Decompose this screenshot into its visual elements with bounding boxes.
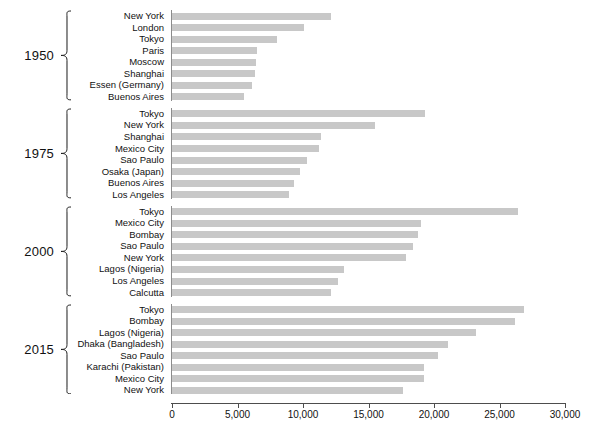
category-label: Los Angeles [112, 276, 168, 286]
category-label: Mexico City [115, 218, 168, 228]
category-label: New York [124, 120, 168, 130]
category-label: Dhaka (Bangladesh) [77, 339, 168, 349]
x-axis-tick-label: 30,000 [550, 409, 581, 420]
bar [172, 278, 338, 285]
bar [172, 364, 424, 371]
x-axis-tick [172, 404, 173, 408]
category-label: Sao Paulo [120, 155, 168, 165]
bar [172, 191, 289, 198]
x-axis-tick-label: 20,000 [419, 409, 450, 420]
category-labels-column: New YorkLondonTokyoParisMoscowShanghaiEs… [0, 0, 168, 429]
bar [172, 82, 252, 89]
bar [172, 375, 424, 382]
group-brace-icon [58, 108, 72, 199]
category-label: Mexico City [115, 144, 168, 154]
bar [172, 243, 413, 250]
group-year-label: 2015 [8, 342, 54, 357]
bar [172, 180, 294, 187]
category-label: Karachi (Pakistan) [86, 362, 168, 372]
group-year-label: 2000 [8, 244, 54, 259]
category-label: London [132, 23, 168, 33]
group-baseline [171, 304, 172, 395]
bar [172, 47, 257, 54]
bar [172, 145, 319, 152]
bar [172, 36, 277, 43]
plot-area: 05,00010,00015,00020,00025,00030,000 [168, 0, 597, 429]
category-label: Osaka (Japan) [102, 167, 168, 177]
bar [172, 387, 403, 394]
bar [172, 70, 255, 77]
bar [172, 231, 418, 238]
category-label: Bombay [129, 230, 168, 240]
group-brace-icon [58, 10, 72, 101]
x-axis-tick-label: 15,000 [353, 409, 384, 420]
bar [172, 254, 406, 261]
x-axis-tick-label: 0 [169, 409, 175, 420]
category-label: Bombay [129, 316, 168, 326]
bar [172, 208, 518, 215]
x-axis-tick [565, 404, 566, 408]
category-label: Los Angeles [112, 190, 168, 200]
category-label: Lagos (Nigeria) [99, 264, 168, 274]
group-baseline [171, 206, 172, 297]
category-label: Tokyo [139, 207, 168, 217]
x-axis-tick [303, 404, 304, 408]
category-label: Tokyo [139, 109, 168, 119]
category-label: Paris [142, 46, 168, 56]
bar [172, 220, 421, 227]
category-label: New York [124, 253, 168, 263]
category-label: Buenos Aires [108, 92, 168, 102]
x-axis-tick [369, 404, 370, 408]
category-label: Shanghai [124, 132, 168, 142]
bar [172, 306, 524, 313]
group-brace-icon [58, 304, 72, 395]
category-label: Sao Paulo [120, 351, 168, 361]
bar [172, 110, 425, 117]
group-baseline [171, 108, 172, 199]
bar [172, 329, 476, 336]
bar [172, 13, 331, 20]
category-label: Tokyo [139, 305, 168, 315]
bar [172, 59, 256, 66]
bar [172, 266, 344, 273]
bar [172, 133, 321, 140]
category-label: Calcutta [129, 288, 168, 298]
category-label: New York [124, 11, 168, 21]
group-year-label: 1975 [8, 146, 54, 161]
x-axis-tick [434, 404, 435, 408]
bar [172, 352, 438, 359]
category-label: Lagos (Nigeria) [99, 328, 168, 338]
bar [172, 289, 331, 296]
category-label: Essen (Germany) [90, 80, 168, 90]
bar [172, 24, 304, 31]
x-axis-tick-label: 5,000 [225, 409, 250, 420]
category-label: Sao Paulo [120, 241, 168, 251]
category-label: Shanghai [124, 69, 168, 79]
category-label: New York [124, 385, 168, 395]
population-bar-chart: New YorkLondonTokyoParisMoscowShanghaiEs… [0, 0, 597, 429]
category-label: Mexico City [115, 374, 168, 384]
group-baseline [171, 10, 172, 101]
x-axis-tick-label: 10,000 [288, 409, 319, 420]
group-brace-icon [58, 206, 72, 297]
bar [172, 122, 375, 129]
bar [172, 93, 244, 100]
bar [172, 168, 300, 175]
bar [172, 318, 515, 325]
group-year-label: 1950 [8, 48, 54, 63]
category-label: Buenos Aires [108, 178, 168, 188]
category-label: Moscow [129, 57, 168, 67]
bar [172, 157, 307, 164]
x-axis-tick [500, 404, 501, 408]
x-axis-tick-label: 25,000 [484, 409, 515, 420]
bar [172, 341, 448, 348]
x-axis-tick [238, 404, 239, 408]
category-label: Tokyo [139, 34, 168, 44]
